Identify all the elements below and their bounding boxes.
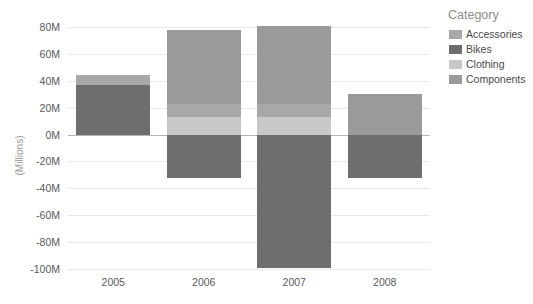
legend-item-label: Accessories (466, 28, 523, 40)
legend-item[interactable]: Clothing (449, 58, 533, 70)
y-axis-ticks: 80M60M40M20M0M-20M-40M-60M-80M-100M (10, 27, 60, 269)
bar-segment[interactable] (348, 135, 422, 178)
y-tick-label: 0M (14, 129, 60, 141)
y-tick-label: -80M (14, 236, 60, 248)
legend-swatch-icon (449, 60, 462, 69)
legend-items: AccessoriesBikesClothingComponents (449, 28, 533, 85)
bar-chart: (Millions) 80M60M40M20M0M-20M-40M-60M-80… (0, 0, 533, 304)
bar-segment[interactable] (257, 26, 331, 104)
plot-area (68, 27, 430, 269)
legend-swatch-icon (449, 45, 462, 54)
x-tick-label: 2007 (283, 276, 306, 288)
bar-segment[interactable] (257, 104, 331, 117)
y-tick-label: -60M (14, 209, 60, 221)
legend: Category AccessoriesBikesClothingCompone… (449, 8, 533, 88)
y-tick-label: 20M (14, 102, 60, 114)
bar-group[interactable] (167, 27, 241, 269)
legend-item[interactable]: Components (449, 73, 533, 85)
bar-segment[interactable] (167, 117, 241, 134)
legend-swatch-icon (449, 30, 462, 39)
bar-group[interactable] (348, 27, 422, 269)
y-tick-label: 80M (14, 21, 60, 33)
bar-group[interactable] (76, 27, 150, 269)
bar-segment[interactable] (76, 75, 150, 84)
bar-group[interactable] (257, 27, 331, 269)
bar-segment[interactable] (167, 30, 241, 104)
bar-segment[interactable] (167, 104, 241, 117)
legend-title: Category (448, 8, 533, 22)
bar-segment[interactable] (348, 94, 422, 134)
legend-item-label: Components (466, 73, 526, 85)
legend-item[interactable]: Accessories (449, 28, 533, 40)
legend-item[interactable]: Bikes (449, 43, 533, 55)
gridline (68, 269, 430, 270)
bar-segment[interactable] (76, 85, 150, 135)
bar-segment[interactable] (257, 117, 331, 134)
x-tick-label: 2008 (373, 276, 396, 288)
legend-item-label: Bikes (466, 43, 492, 55)
y-tick-label: -20M (14, 155, 60, 167)
y-tick-label: 40M (14, 75, 60, 87)
y-tick-label: -100M (14, 263, 60, 275)
x-tick-label: 2005 (102, 276, 125, 288)
legend-item-label: Clothing (466, 58, 505, 70)
x-tick-label: 2006 (192, 276, 215, 288)
bar-segment[interactable] (257, 135, 331, 268)
bar-segment[interactable] (167, 135, 241, 178)
legend-swatch-icon (449, 75, 462, 84)
y-tick-label: 60M (14, 48, 60, 60)
y-tick-label: -40M (14, 182, 60, 194)
